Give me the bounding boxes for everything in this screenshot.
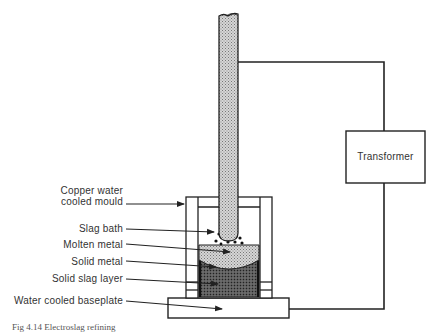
label-mould-line2: cooled mould <box>20 196 123 207</box>
baseplate <box>168 298 289 318</box>
electrode <box>219 13 238 241</box>
label-mould-line1: Copper water <box>20 185 123 196</box>
figure-caption: Fig 4.14 Electroslag refining <box>12 322 115 332</box>
label-solid-slag-layer: Solid slag layer <box>0 273 123 284</box>
label-solid-metal: Solid metal <box>20 256 123 267</box>
label-slag-bath: Slag bath <box>20 223 123 234</box>
label-mould: Copper water cooled mould <box>20 185 123 207</box>
transformer-label: Transformer <box>346 151 425 162</box>
label-molten-metal: Molten metal <box>20 239 123 250</box>
label-baseplate: Water cooled baseplate <box>0 295 123 306</box>
